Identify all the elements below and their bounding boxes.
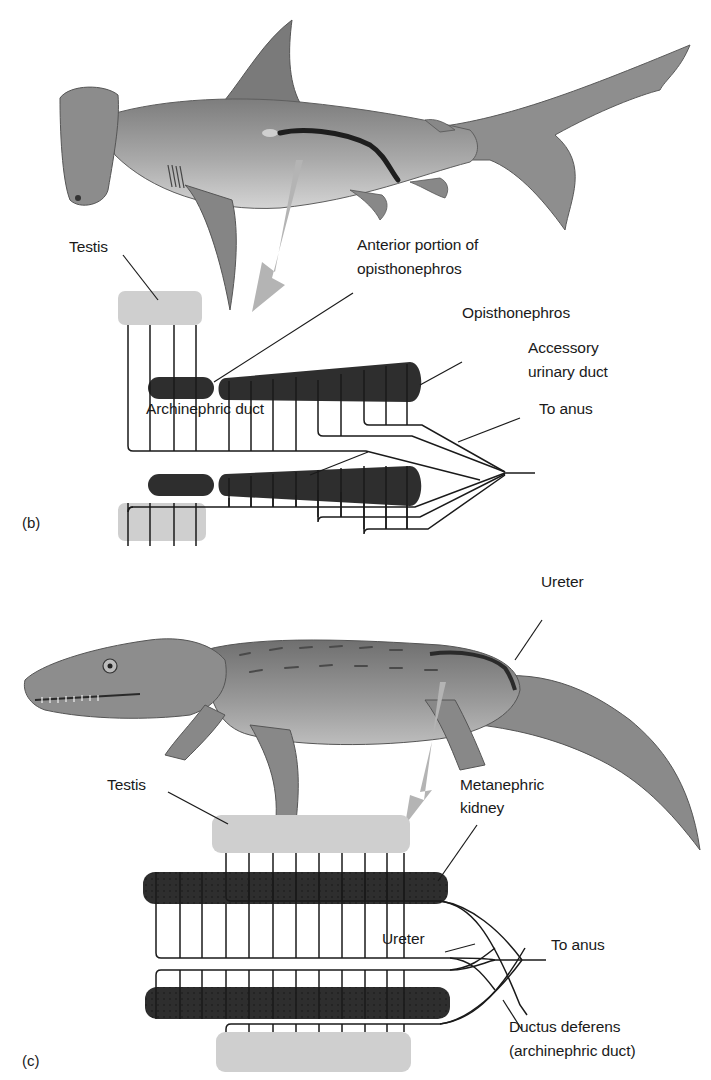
testis-top-b — [118, 291, 202, 325]
testis-top-c — [212, 815, 410, 853]
testis-bottom-b — [118, 503, 206, 541]
opisthonephros-top — [219, 362, 422, 402]
testis-bottom-c — [216, 1032, 411, 1072]
label-archinephric-duct: Archinephric duct — [146, 398, 264, 419]
label-metanephric-kidney-line2: kidney — [460, 797, 504, 818]
label-to-anus-b: To anus — [539, 398, 593, 419]
anterior-opisthonephros-bottom — [148, 474, 214, 496]
anterior-opisthonephros-top — [148, 377, 214, 399]
label-ureter-top: Ureter — [541, 571, 583, 592]
label-ureter-c: Ureter — [382, 928, 424, 949]
label-testis-b: Testis — [69, 236, 108, 257]
label-anterior-opisthonephros-line1: Anterior portion of — [357, 234, 478, 255]
label-opisthonephros: Opisthonephros — [462, 302, 570, 323]
label-accessory-urinary-duct-line1: Accessory — [528, 337, 599, 358]
label-metanephric-kidney-line1: Metanephric — [460, 774, 544, 795]
label-ductus-deferens-line1: Ductus deferens — [509, 1016, 620, 1037]
figure-canvas — [0, 0, 711, 1080]
shark-duct-lines — [128, 325, 535, 534]
label-ductus-deferens-line2: (archinephric duct) — [509, 1040, 635, 1061]
panel-b-leaders — [123, 255, 520, 475]
label-to-anus-c: To anus — [551, 934, 605, 955]
panel-letter-b: (b) — [22, 514, 40, 531]
label-testis-c: Testis — [107, 774, 146, 795]
label-accessory-urinary-duct-line2: urinary duct — [528, 361, 608, 382]
label-anterior-opisthonephros-line2: opisthonephros — [357, 258, 462, 279]
opisthonephros-bottom — [219, 466, 422, 506]
panel-letter-c: (c) — [22, 1052, 40, 1069]
